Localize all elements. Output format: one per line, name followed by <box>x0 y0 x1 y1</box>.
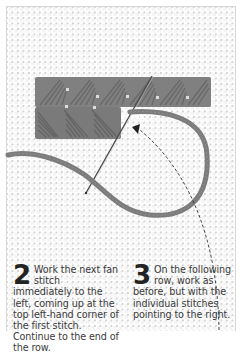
step-3-caption: 3 On the following row, work as before, … <box>133 264 233 320</box>
step-number: 2 <box>13 264 31 286</box>
step-2-caption: 2 Work the next fan stitch immediately t… <box>13 264 121 354</box>
step-number: 3 <box>133 264 151 286</box>
